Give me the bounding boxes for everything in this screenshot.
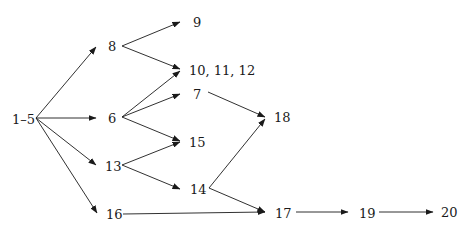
node-label: 8 <box>108 40 116 53</box>
node-label: 17 <box>275 207 292 220</box>
node-label: 7 <box>193 88 201 101</box>
arrow-edge <box>36 47 96 118</box>
node-label: 20 <box>441 206 458 219</box>
arrow-edge <box>122 94 180 117</box>
node-label: 13 <box>105 160 122 173</box>
node-label: 1–5 <box>12 113 35 126</box>
arrow-edge <box>122 142 180 165</box>
precedence-diagram: 1–58910, 11, 12761513141618171920 <box>0 0 463 229</box>
node-label: 6 <box>108 112 116 125</box>
edge-layer <box>0 0 463 229</box>
arrow-edge <box>36 118 97 213</box>
node-label: 14 <box>190 183 207 196</box>
arrow-edge <box>123 212 265 214</box>
arrow-edge <box>122 117 180 141</box>
arrow-edge <box>122 165 180 189</box>
node-label: 19 <box>359 207 376 220</box>
node-label: 10, 11, 12 <box>189 64 255 77</box>
node-label: 15 <box>189 136 206 149</box>
arrow-edge <box>209 188 265 212</box>
arrow-edge <box>208 92 265 117</box>
arrow-edge <box>209 119 265 188</box>
node-label: 9 <box>193 16 201 29</box>
arrow-edge <box>122 71 180 117</box>
arrow-edge <box>122 46 180 69</box>
node-label: 18 <box>274 111 291 124</box>
node-label: 16 <box>106 208 123 221</box>
arrow-edge <box>122 22 180 46</box>
arrow-edge <box>36 118 96 165</box>
